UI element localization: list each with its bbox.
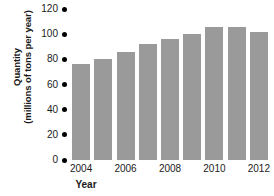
y-tick-label: 80 [24,53,58,65]
y-tick-marker-dot [62,132,67,137]
bar-2007 [139,44,157,160]
bar-2009 [183,34,201,160]
bar-2011 [228,27,246,160]
y-tick-marker-dot [62,158,67,163]
bar-2012 [250,32,268,160]
x-tick-label: 2012 [239,163,274,175]
y-tick-marker-dot [62,107,67,112]
x-tick-label: 2004 [61,163,101,175]
x-tick-label: 2010 [194,163,234,175]
y-tick-marker-dot [62,57,67,62]
y-tick-label: 120 [24,3,58,15]
bar-2004 [72,64,90,160]
y-tick-marker-dot [62,32,67,37]
y-axis-title-line2: (millions of tons per year) [22,0,33,137]
y-tick-label: 0 [24,154,58,166]
bar-chart: Quantity (millions of tons per year) 120… [0,0,274,196]
y-tick-marker-dot [62,82,67,87]
y-tick-label: 20 [24,129,58,141]
x-tick-label: 2006 [106,163,146,175]
bar-2005 [94,59,112,160]
x-axis-title: Year [56,179,116,191]
y-axis-title-line1: Quantity [11,0,22,137]
plot-area [70,9,270,160]
y-tick-label: 100 [24,28,58,40]
bar-2010 [205,27,223,160]
y-tick-marker-dot [62,7,67,12]
bar-2006 [117,52,135,160]
x-tick-label: 2008 [150,163,190,175]
bar-2008 [161,39,179,160]
y-tick-label: 60 [24,79,58,91]
y-axis-title: Quantity (millions of tons per year) [11,0,41,137]
y-tick-label: 40 [24,104,58,116]
